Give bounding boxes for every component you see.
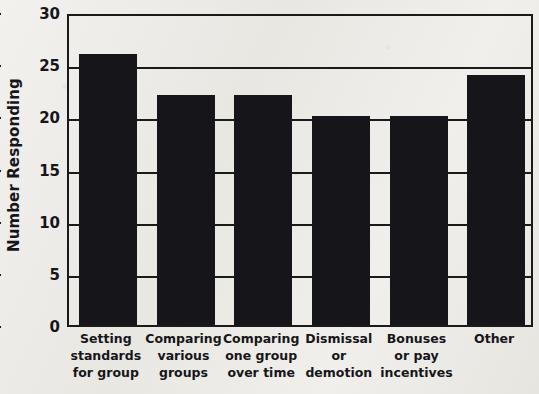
bar [157,95,215,325]
y-axis-tick-mark [0,13,1,15]
y-axis-tick-mark [0,326,1,328]
x-axis-category-label-line: standards [67,348,145,365]
y-axis-tick-label: 5 [24,267,60,282]
x-axis-category-label: Bonusesor payincentives [378,331,456,381]
x-axis-category-label-line: or [300,348,378,365]
x-axis-category-label-line: various [145,348,223,365]
y-axis-tick-marks [0,14,1,327]
x-axis-category-label-line: demotion [300,365,378,382]
x-axis-category-label-line: Other [455,331,533,348]
x-axis-category-label-line: incentives [378,365,456,382]
bar-chart: Number Responding 051015202530 Settingst… [0,0,539,394]
y-axis-tick-label: 30 [24,7,60,22]
y-axis-tick-mark [0,65,1,67]
y-axis-tick-label: 0 [24,320,60,335]
y-axis-tick-label: 10 [24,215,60,230]
y-axis-tick-mark [0,222,1,224]
y-axis-tick-label: 15 [24,163,60,178]
bar [234,95,292,325]
x-axis-category-labels: Settingstandardsfor groupComparingvariou… [67,331,533,389]
x-axis-category-label: Dismissalordemotion [300,331,378,381]
x-axis-category-label-line: Setting [67,331,145,348]
plot-area [67,14,533,327]
y-axis-tick-mark [0,117,1,119]
x-axis-category-label-line: one group [222,348,300,365]
x-axis-category-label: Settingstandardsfor group [67,331,145,381]
y-axis-tick-label: 20 [24,111,60,126]
y-axis-tick-label: 25 [24,59,60,74]
bar [79,54,137,325]
y-axis-title-text: Number Responding [5,78,23,252]
x-axis-category-label-line: for group [67,365,145,382]
bar [467,75,525,325]
y-axis-tick-mark [0,170,1,172]
bar [312,116,370,325]
x-axis-category-label: Comparingvariousgroups [145,331,223,381]
x-axis-category-label: Other [455,331,533,348]
bars-layer [69,16,531,325]
x-axis-category-label: Comparingone groupover time [222,331,300,381]
x-axis-category-label-line: Comparing [222,331,300,348]
x-axis-category-label-line: or pay [378,348,456,365]
x-axis-category-label-line: Dismissal [300,331,378,348]
y-axis-tick-mark [0,274,1,276]
x-axis-category-label-line: over time [222,365,300,382]
y-axis-tick-labels: 051015202530 [24,0,60,394]
x-axis-category-label-line: Bonuses [378,331,456,348]
x-axis-category-label-line: groups [145,365,223,382]
bar [390,116,448,325]
x-axis-category-label-line: Comparing [145,331,223,348]
